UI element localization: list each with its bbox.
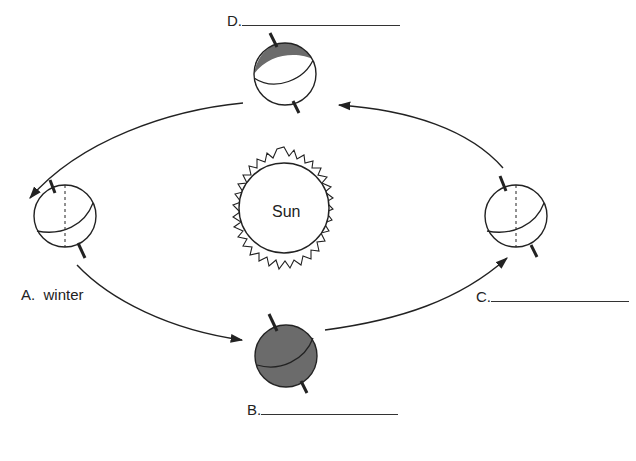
earth-a-icon xyxy=(34,180,96,258)
arrow-d-to-a xyxy=(30,103,243,198)
arrow-a-to-b xyxy=(77,265,242,340)
label-a-answer: winter xyxy=(44,286,84,303)
sun-label: Sun xyxy=(272,203,300,221)
answer-blank-c[interactable] xyxy=(491,289,629,302)
earth-b-icon xyxy=(255,314,317,393)
answer-blank-b[interactable] xyxy=(261,402,398,415)
label-b-letter: B. xyxy=(247,401,261,418)
label-c-letter: C. xyxy=(476,288,491,305)
answer-blank-d[interactable] xyxy=(242,13,400,26)
label-b: B. xyxy=(247,401,398,418)
earth-d-icon xyxy=(254,33,316,113)
label-d: D. xyxy=(227,12,400,29)
orbit-diagram xyxy=(0,0,636,461)
arrow-c-to-d xyxy=(339,105,503,168)
earth-c-icon xyxy=(485,176,547,257)
label-d-letter: D. xyxy=(227,12,242,29)
label-a: A. winter xyxy=(21,286,84,303)
label-c: C. xyxy=(476,288,629,305)
label-a-letter: A. xyxy=(21,286,35,303)
